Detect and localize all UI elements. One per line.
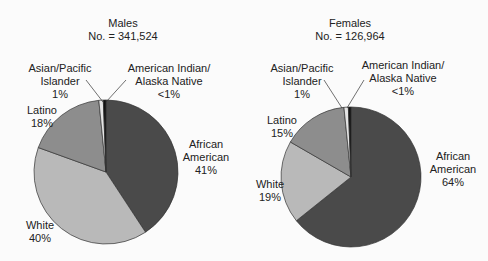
label-line: Islander (22, 75, 98, 88)
males-label-amind: American Indian/ Alaska Native <1% (124, 62, 214, 101)
females-title: Females No. = 126,964 (308, 17, 392, 43)
label-line: Alaska Native (124, 75, 214, 88)
males-title: Males No. = 341,524 (81, 17, 165, 43)
label-pct: <1% (358, 85, 448, 98)
label-pct: 1% (22, 88, 98, 101)
label-line: Latino (262, 114, 302, 127)
label-pct: 19% (250, 191, 290, 204)
label-pct: 40% (20, 232, 60, 245)
females-label-latino: Latino 15% (262, 114, 302, 140)
males-label-white: White 40% (20, 219, 60, 245)
label-line: White (20, 219, 60, 232)
label-pct: 1% (264, 88, 340, 101)
label-line: African (424, 150, 482, 163)
label-line: American Indian/ (358, 59, 448, 72)
males-title-text: Males (81, 17, 165, 30)
label-line: White (250, 178, 290, 191)
males-label-latino: Latino 18% (22, 104, 62, 130)
females-label-white: White 19% (250, 178, 290, 204)
females-label-asian: Asian/Pacific Islander 1% (264, 62, 340, 101)
females-count: No. = 126,964 (308, 30, 392, 43)
label-pct: 18% (22, 117, 62, 130)
label-pct: <1% (124, 88, 214, 101)
label-line: American (178, 151, 234, 164)
label-line: American (424, 163, 482, 176)
label-line: African (178, 138, 234, 151)
females-pie (281, 107, 421, 247)
males-label-afam: African American 41% (178, 138, 234, 177)
label-line: Asian/Pacific (264, 62, 340, 75)
leader-line-amind-males (106, 80, 126, 102)
label-line: American Indian/ (124, 62, 214, 75)
label-pct: 64% (424, 176, 482, 189)
label-pct: 15% (262, 127, 302, 140)
females-title-text: Females (308, 17, 392, 30)
females-label-afam: African American 64% (424, 150, 482, 189)
males-count: No. = 341,524 (81, 30, 165, 43)
label-line: Alaska Native (358, 72, 448, 85)
males-label-asian: Asian/Pacific Islander 1% (22, 62, 98, 101)
pie-charts (0, 0, 488, 261)
label-line: Latino (22, 104, 62, 117)
label-line: Islander (264, 75, 340, 88)
females-label-amind: American Indian/ Alaska Native <1% (358, 59, 448, 98)
label-line: Asian/Pacific (22, 62, 98, 75)
label-pct: 41% (178, 164, 234, 177)
